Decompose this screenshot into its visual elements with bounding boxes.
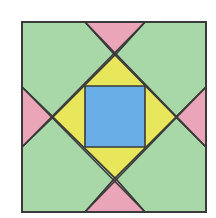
quilt-block-figure — [0, 0, 216, 218]
blue-center-square — [85, 86, 145, 147]
quilt-block-svg — [0, 0, 216, 218]
regions-group — [22, 22, 206, 212]
